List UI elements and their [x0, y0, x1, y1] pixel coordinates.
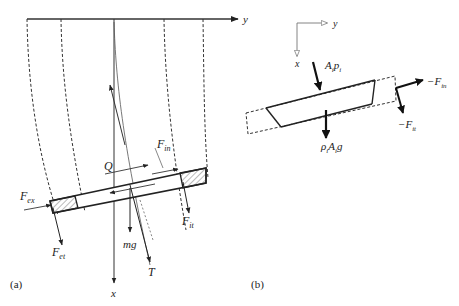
- dashed-line-2: [61, 19, 85, 212]
- string-curve: [114, 22, 150, 265]
- panel-b: y x Aipi ρiAig −Fin −Fit (b): [246, 18, 447, 291]
- label-rho-a-g: ρiAig: [320, 140, 343, 155]
- label-f-in: Fin: [156, 137, 171, 153]
- dashed-element-outline: [246, 76, 396, 134]
- label-q: Q: [104, 159, 113, 173]
- dashed-line-4: [203, 19, 208, 178]
- pressure-force-arrow: [313, 62, 320, 90]
- upward-arrow: [110, 85, 125, 145]
- element-right-edge: [372, 80, 375, 104]
- panel-a: y x Q Fin Fex Fet: [10, 13, 248, 299]
- x-axis-label-a: x: [110, 287, 116, 299]
- neg-f-it-arrow: [396, 88, 403, 113]
- hatched-end-left: [50, 196, 78, 213]
- force-diagram: y x Q Fin Fex Fet: [0, 0, 459, 306]
- label-neg-f-in: −Fin: [427, 75, 447, 90]
- t-dashed: [140, 200, 153, 240]
- dashed-line-3: [164, 19, 186, 230]
- label-neg-f-it: −Fit: [398, 118, 417, 133]
- element-left-edge: [266, 108, 281, 127]
- label-f-it: Fit: [181, 214, 195, 230]
- label-f-ex: Fex: [19, 189, 35, 205]
- caption-b: (b): [251, 278, 264, 291]
- label-mg: mg: [123, 238, 137, 250]
- label-aipi: Aipi: [324, 59, 341, 74]
- f-in-leader: [155, 148, 163, 168]
- f-in-arrow: [152, 169, 178, 174]
- dashed-line-1: [27, 19, 58, 215]
- caption-a: (a): [10, 278, 23, 291]
- element-top-edge: [266, 80, 375, 108]
- label-t: T: [148, 265, 156, 279]
- f-ex-arrow: [24, 205, 51, 210]
- y-axis-label-b: y: [332, 18, 338, 29]
- x-axis-label-b: x: [294, 58, 300, 69]
- label-f-et: Fet: [51, 245, 66, 261]
- neg-f-in-arrow: [396, 80, 423, 88]
- y-axis-label-a: y: [242, 13, 248, 25]
